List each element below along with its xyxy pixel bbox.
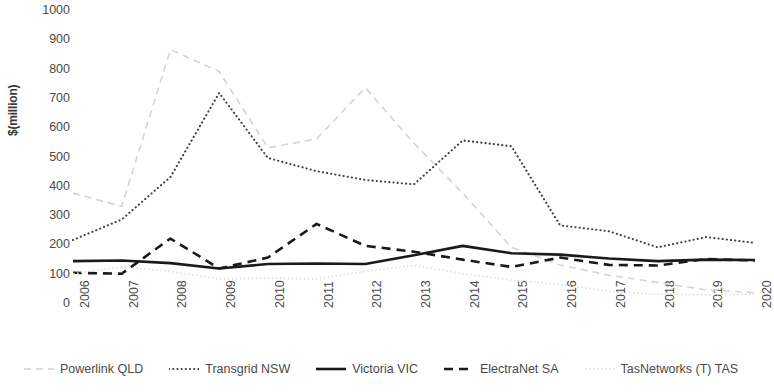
series-line <box>73 265 755 294</box>
legend-label: ElectraNet SA <box>480 362 559 376</box>
chart-legend: Powerlink QLDTransgrid NSWVictoria VICEl… <box>0 362 762 376</box>
legend-line-swatch <box>444 364 474 374</box>
legend-item[interactable]: TasNetworks (T) TAS <box>585 362 739 376</box>
legend-line-swatch <box>24 364 54 374</box>
legend-line-swatch <box>169 364 199 374</box>
legend-item[interactable]: Victoria VIC <box>316 362 418 376</box>
x-axis-tick-label: 2020 <box>760 280 774 308</box>
legend-item[interactable]: Powerlink QLD <box>24 362 143 376</box>
legend-label: Transgrid NSW <box>205 362 290 376</box>
legend-line-swatch <box>585 364 615 374</box>
legend-label: Victoria VIC <box>352 362 418 376</box>
legend-item[interactable]: Transgrid NSW <box>169 362 290 376</box>
legend-label: TasNetworks (T) TAS <box>621 362 739 376</box>
legend-label: Powerlink QLD <box>60 362 143 376</box>
series-line <box>73 224 755 274</box>
legend-line-swatch <box>316 364 346 374</box>
series-line <box>73 93 755 247</box>
legend-item[interactable]: ElectraNet SA <box>444 362 559 376</box>
